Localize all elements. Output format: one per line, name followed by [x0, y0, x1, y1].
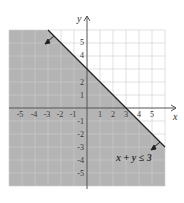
- svg-text:3: 3: [124, 110, 128, 119]
- svg-text:-3: -3: [77, 143, 84, 152]
- svg-text:4: 4: [80, 51, 84, 60]
- x-axis-label: x: [172, 111, 178, 122]
- svg-text:-1: -1: [70, 110, 77, 119]
- svg-text:-4: -4: [31, 110, 38, 119]
- inequality-graph: x y -5 -4 -3 -2 -1 1 2 3 4 5 5 4 2 1 -1 …: [0, 0, 184, 203]
- svg-text:-5: -5: [17, 110, 24, 119]
- svg-text:5: 5: [150, 110, 154, 119]
- svg-text:-4: -4: [77, 156, 84, 165]
- svg-text:-2: -2: [77, 130, 84, 139]
- svg-text:-3: -3: [44, 110, 51, 119]
- y-axis-label: y: [76, 13, 82, 24]
- inequality-annotation: x + y ≤ 3: [115, 152, 152, 163]
- svg-text:2: 2: [111, 110, 115, 119]
- svg-text:1: 1: [98, 110, 102, 119]
- svg-text:2: 2: [80, 78, 84, 87]
- svg-text:1: 1: [80, 91, 84, 100]
- svg-text:-1: -1: [77, 117, 84, 126]
- svg-text:4: 4: [137, 110, 141, 119]
- svg-text:-2: -2: [57, 110, 64, 119]
- svg-text:5: 5: [80, 38, 84, 47]
- svg-text:-5: -5: [77, 169, 84, 178]
